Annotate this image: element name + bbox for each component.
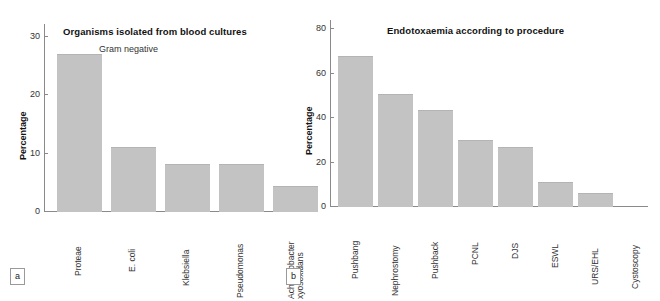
panel-b-tick-mark-20	[330, 162, 334, 163]
panel-a-bar-pseudomonas	[219, 164, 264, 212]
panel-a-tag: a	[10, 268, 25, 285]
figure-two-bar-charts: Organisms isolated from blood cultures G…	[0, 0, 660, 301]
panel-b-bar-pcnl	[458, 140, 493, 207]
panel-b-category-label-djs: DJS	[511, 243, 520, 259]
panel-a-category-label-e-coli: E. coli	[128, 249, 137, 272]
panel-b-tag: b	[286, 268, 301, 285]
panel-b-category-label-pushback: Pushback	[431, 242, 440, 279]
panel-b-category-label-pcnl: PCNL	[471, 242, 480, 265]
panel-b-category-label-urs-ehl: URS/EHL	[591, 248, 600, 285]
panel-b-bar-djs	[498, 147, 533, 207]
panel-b-category-label-cystoscopy: Cystoscopy	[631, 245, 640, 289]
panel-b-tick-label-40: 40	[306, 112, 326, 122]
panel-b-bar-pushback	[418, 110, 453, 207]
panel-b-y-axis	[330, 20, 331, 207]
panel-a-tick-mark-10	[44, 153, 48, 154]
panel-a-category-label-klebsiella: Klebsiella	[182, 250, 191, 286]
panel-a-tick-mark-0	[44, 211, 48, 212]
panel-a-bar-klebsiella	[165, 164, 210, 212]
panel-b-tick-mark-80	[330, 28, 334, 29]
panel-a-tick-label-0: 0	[20, 206, 40, 216]
panel-a-subtitle: Gram negative	[99, 44, 158, 54]
panel-b-bar-eswl	[538, 182, 573, 207]
chart-panel-a: Organisms isolated from blood cultures G…	[0, 0, 300, 301]
panel-b-bar-pushbang	[338, 56, 373, 207]
panel-a-bar-e-coli	[111, 147, 156, 212]
panel-a-y-axis	[44, 24, 45, 212]
panel-b-category-label-eswl: ESWL	[551, 244, 560, 268]
panel-b-title: Endotoxaemia according to procedure	[387, 25, 564, 36]
panel-a-category-label-pseudomonas: Pseudomonas	[236, 244, 245, 298]
panel-b-tick-label-0: 0	[306, 201, 326, 211]
panel-a-category-label-proteae: Proteae	[74, 246, 83, 276]
panel-a-tick-label-20: 20	[20, 89, 40, 99]
panel-b-tick-mark-60	[330, 73, 334, 74]
panel-b-category-label-nephrostomy: Nephrostomy	[391, 245, 400, 296]
panel-a-tick-mark-30	[44, 36, 48, 37]
panel-b-bar-urs-ehl	[578, 193, 613, 207]
panel-a-tick-label-30: 30	[20, 31, 40, 41]
panel-b-tick-label-80: 80	[306, 23, 326, 33]
chart-panel-b: Endotoxaemia according to procedure Perc…	[286, 0, 660, 301]
panel-b-tick-label-60: 60	[306, 68, 326, 78]
panel-b-bar-nephrostomy	[378, 94, 413, 207]
panel-b-tick-mark-0	[330, 206, 334, 207]
panel-b-tick-mark-40	[330, 117, 334, 118]
panel-a-title: Organisms isolated from blood cultures	[63, 26, 247, 37]
panel-b-tick-label-20: 20	[306, 157, 326, 167]
panel-b-category-label-pushbang: Pushbang	[351, 241, 360, 279]
panel-a-tick-mark-20	[44, 94, 48, 95]
panel-a-bar-proteae	[57, 54, 102, 212]
panel-a-tick-label-10: 10	[20, 148, 40, 158]
